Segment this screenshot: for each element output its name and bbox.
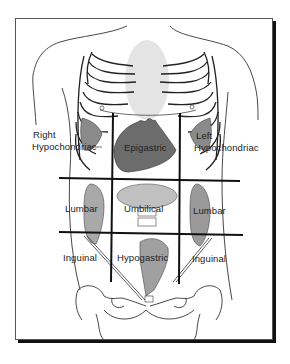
label-right-hypochondriac-line2: Hypochondriac: [32, 141, 97, 152]
anatomy-illustration: [0, 0, 290, 364]
label-hypogastric: Hypogastric: [117, 252, 168, 263]
subcostal-line: [59, 178, 240, 181]
label-right-lumbar: Lumbar: [65, 203, 98, 214]
label-epigastric: Epigastric: [124, 142, 167, 153]
label-left-lumbar: Lumbar: [193, 205, 226, 216]
sternum-region: [125, 40, 169, 120]
bladder-uterus: [140, 239, 168, 302]
label-left-inguinal: Inguinal: [192, 253, 226, 264]
label-right-hypochondriac-line1: Right: [33, 129, 56, 140]
left-midclavicular-line: [179, 113, 180, 284]
label-left-hypochondriac-line1: Left: [196, 130, 212, 141]
label-right-inguinal: Inguinal: [63, 252, 97, 263]
right-midclavicular-line: [111, 113, 113, 282]
ascending-colon: [84, 184, 104, 244]
label-left-hypochondriac-line2: Hypochondriac: [194, 142, 259, 153]
nipple-marker-left: [190, 105, 194, 109]
label-umbilical: Umbilical: [124, 203, 163, 214]
nipple-marker-right: [100, 106, 104, 110]
